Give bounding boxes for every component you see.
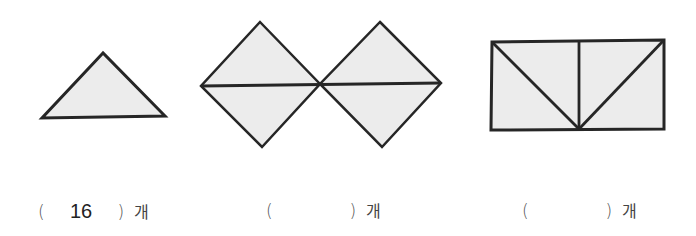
figure-two-diamonds xyxy=(201,22,441,147)
close-paren: ) xyxy=(349,198,356,224)
open-paren: ( xyxy=(266,198,273,224)
answer-blank-2: ( ) 개 xyxy=(266,198,381,224)
close-paren: ) xyxy=(605,198,612,224)
open-paren: ( xyxy=(522,198,529,224)
answer-blank-3: ( ) 개 xyxy=(522,198,637,224)
unit-label: 개 xyxy=(622,199,637,225)
figure-rectangle xyxy=(491,40,664,130)
unit-label: 개 xyxy=(134,200,149,226)
answer-value-input[interactable]: 16 xyxy=(50,198,112,224)
close-paren: ) xyxy=(117,199,124,225)
unit-label: 개 xyxy=(366,199,381,225)
rectangle-outline xyxy=(491,40,664,130)
answer-blank-1: ( 16 ) 개 xyxy=(38,198,149,224)
figure-triangle xyxy=(42,53,165,118)
open-paren: ( xyxy=(38,199,45,225)
